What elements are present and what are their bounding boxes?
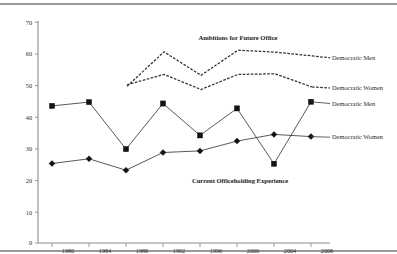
y-tick-label-70: 70 — [26, 19, 32, 26]
x-tick-label-1980: 1980 — [62, 247, 74, 254]
x-tick-label-2008: 2008 — [321, 247, 333, 254]
data-point-marker — [234, 138, 240, 144]
legend-leader-ambitions-women — [312, 87, 330, 88]
data-point-marker — [197, 148, 203, 154]
x-tick-label-1992: 1992 — [173, 247, 185, 254]
data-point-marker — [123, 167, 129, 173]
annotation-ambitions: Ambitions for Future Office — [198, 34, 277, 41]
legend-label-ambitions-men: Democratic Men — [332, 54, 376, 61]
y-tick-label-10: 10 — [26, 209, 32, 216]
data-point-marker — [271, 131, 277, 137]
x-tick-label-1996: 1996 — [210, 247, 222, 254]
y-tick-label-20: 20 — [26, 177, 32, 184]
legend-group: Democratic Men Democratic Women Democrat… — [311, 54, 384, 141]
data-point-marker — [234, 106, 239, 111]
x-tick-label-1988: 1988 — [136, 247, 148, 254]
legend-label-ambitions-women: Democratic Women — [332, 84, 384, 91]
series-line-ambitions-men — [127, 50, 312, 86]
axes-group — [38, 21, 330, 243]
data-point-marker — [160, 150, 166, 156]
data-point-marker — [49, 161, 55, 167]
data-point-marker — [271, 161, 276, 166]
data-point-marker — [86, 100, 91, 105]
x-axis-ticks: 1980 1984 1988 1992 1996 2000 2004 2008 — [52, 243, 333, 254]
markers-officeholding-women — [49, 131, 314, 173]
annotation-officeholding: Current Officeholding Experience — [192, 177, 288, 184]
x-tick-label-1984: 1984 — [99, 247, 111, 254]
data-point-marker — [86, 156, 92, 162]
data-point-marker — [160, 101, 165, 106]
data-point-marker — [49, 103, 54, 108]
data-point-marker — [123, 147, 128, 152]
line-chart-svg: 70 60 50 40 30 20 10 0 1980 1984 1988 — [0, 0, 397, 254]
y-tick-label-40: 40 — [26, 114, 32, 121]
legend-label-officeholding-women: Democratic Women — [332, 133, 384, 140]
legend-label-officeholding-men: Democratic Men — [332, 100, 376, 107]
series-line-officeholding-men — [52, 102, 311, 164]
legend-leader-ambitions-men — [312, 56, 330, 58]
x-tick-label-2000: 2000 — [247, 247, 259, 254]
y-tick-label-60: 60 — [26, 50, 32, 57]
y-tick-label-50: 50 — [26, 82, 32, 89]
y-tick-label-0: 0 — [29, 239, 32, 246]
series-line-ambitions-women — [127, 74, 312, 90]
chart-canvas: 70 60 50 40 30 20 10 0 1980 1984 1988 — [0, 0, 397, 254]
y-tick-label-30: 30 — [26, 145, 32, 152]
x-tick-label-2004: 2004 — [284, 247, 296, 254]
legend-leader-officeholding-women — [311, 137, 330, 138]
data-point-marker — [197, 133, 202, 138]
y-axis-ticks: 70 60 50 40 30 20 10 0 — [26, 19, 38, 247]
legend-leader-officeholding-men — [311, 102, 330, 104]
